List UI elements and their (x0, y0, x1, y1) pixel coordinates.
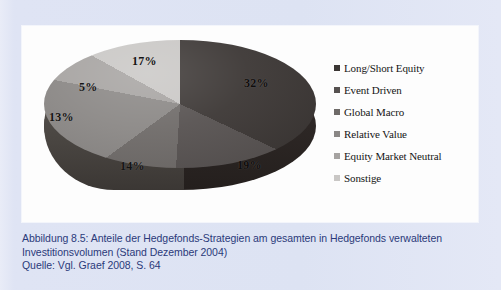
figure-container: 32%19%14%13%5%17% Long/Short EquityEvent… (0, 0, 501, 290)
pie-slice-label: 17% (132, 54, 157, 69)
legend-swatch-icon (334, 131, 340, 137)
figure-caption: Abbildung 8.5: Anteile der Hedgefonds-St… (22, 232, 482, 273)
legend-item-label: Event Driven (344, 84, 402, 96)
legend-item[interactable]: Relative Value (334, 124, 474, 144)
legend-item-label: Relative Value (344, 128, 407, 140)
caption-line-3: Quelle: Vgl. Graef 2008, S. 64 (22, 259, 482, 273)
pie-slice-label: 14% (120, 159, 145, 174)
caption-line-2: Investitionsvolumen (Stand Dezember 2004… (22, 246, 482, 260)
legend-swatch-icon (334, 109, 340, 115)
legend-item[interactable]: Event Driven (334, 80, 474, 100)
pie-slice-label: 13% (49, 110, 74, 125)
caption-line-1: Abbildung 8.5: Anteile der Hedgefonds-St… (22, 232, 482, 246)
pie-top-face (44, 40, 316, 168)
legend-item[interactable]: Long/Short Equity (334, 58, 474, 78)
legend-swatch-icon (334, 65, 340, 71)
pie-slice-label: 32% (244, 76, 269, 91)
pie-3d-body (44, 40, 316, 206)
legend-item[interactable]: Equity Market Neutral (334, 146, 474, 166)
chart-panel: 32%19%14%13%5%17% Long/Short EquityEvent… (22, 26, 478, 222)
legend-item-label: Long/Short Equity (344, 62, 425, 74)
legend-item[interactable]: Global Macro (334, 102, 474, 122)
legend-swatch-icon (334, 175, 340, 181)
chart-legend: Long/Short EquityEvent DrivenGlobal Macr… (334, 58, 474, 190)
pie-slice-label: 5% (79, 80, 97, 95)
legend-item-label: Sonstige (344, 172, 381, 184)
legend-swatch-icon (334, 87, 340, 93)
pie-chart: 32%19%14%13%5%17% (32, 32, 332, 216)
legend-item[interactable]: Sonstige (334, 168, 474, 188)
pie-slice-label: 19% (237, 158, 262, 173)
legend-swatch-icon (334, 153, 340, 159)
legend-item-label: Equity Market Neutral (344, 150, 441, 162)
legend-item-label: Global Macro (344, 106, 404, 118)
